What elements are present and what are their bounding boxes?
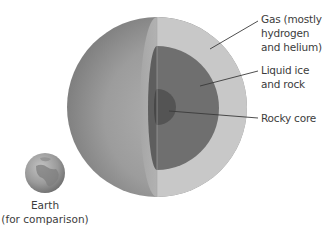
earth-label: Earth (for comparison) bbox=[0, 198, 90, 226]
gas-leader-line bbox=[210, 21, 258, 49]
earth-label-line-2: (for comparison) bbox=[0, 212, 90, 226]
earth bbox=[25, 153, 65, 193]
liquid-label-line-2: and rock bbox=[261, 77, 309, 91]
earth-label-line-1: Earth bbox=[0, 198, 90, 212]
gas-label-line-3: and helium) bbox=[261, 40, 322, 54]
liquid-label: Liquid ice and rock bbox=[261, 63, 309, 91]
core-label: Rocky core bbox=[261, 111, 316, 125]
core-label-line-1: Rocky core bbox=[261, 111, 316, 125]
gas-giant bbox=[67, 17, 247, 197]
gas-label-line-1: Gas (mostly bbox=[261, 12, 322, 26]
gas-label: Gas (mostly hydrogen and helium) bbox=[261, 12, 322, 54]
liquid-label-line-1: Liquid ice bbox=[261, 63, 309, 77]
gas-label-line-2: hydrogen bbox=[261, 26, 322, 40]
